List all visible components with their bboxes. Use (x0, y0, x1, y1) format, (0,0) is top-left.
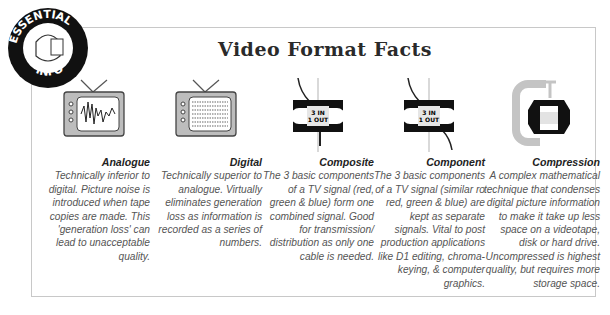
page-title: Video Format Facts (20, 38, 610, 60)
svg-text:3 IN: 3 IN (422, 109, 436, 116)
format-card-analogue: Analogue Technically inferior to digital… (38, 78, 150, 263)
cassette-composite-icon: 3 IN 1 OUT (283, 78, 353, 152)
clamp-cassette-icon (506, 78, 576, 152)
format-card-component: 3 IN 1 OUT Component The 3 basic compone… (373, 78, 485, 290)
svg-text:1 OUT: 1 OUT (308, 116, 329, 123)
format-card-compression: Compression A complex mathematical techn… (482, 78, 600, 290)
essential-info-badge-icon: ESSENTIAL INFO (6, 6, 90, 90)
tv-digital-icon (173, 78, 239, 148)
svg-text:1 OUT: 1 OUT (419, 116, 440, 123)
cassette-component-icon: 3 IN 1 OUT (394, 78, 464, 152)
format-card-digital: Digital Technically superior to analogue… (150, 78, 262, 250)
format-card-composite: 3 IN 1 OUT Composite The 3 basic compone… (262, 78, 374, 263)
svg-text:3 IN: 3 IN (311, 109, 325, 116)
